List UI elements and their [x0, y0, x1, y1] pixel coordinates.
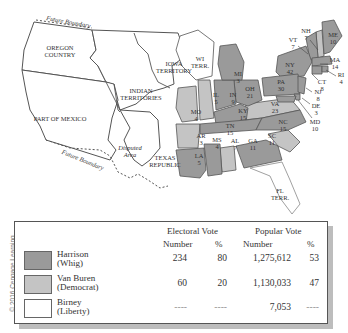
svg-text:7: 7 — [291, 43, 295, 50]
svg-text:Area: Area — [123, 151, 136, 158]
header-popular-vote: Popular Vote — [255, 226, 301, 236]
results-legend: Electoral Vote Popular Vote Number % Num… — [14, 221, 328, 324]
svg-text:REPUBLIC: REPUBLIC — [149, 161, 180, 168]
van-buren-pv-number: 1,130,033 — [237, 278, 291, 288]
svg-text:AR: AR — [196, 132, 206, 139]
svg-text:OH: OH — [245, 85, 255, 92]
svg-text:TERRITORIES: TERRITORIES — [120, 94, 162, 101]
svg-text:10: 10 — [330, 38, 337, 45]
harrison-ev-pct: 80 — [205, 253, 227, 263]
svg-text:4: 4 — [339, 78, 343, 85]
svg-text:TN: TN — [226, 122, 235, 129]
svg-text:11: 11 — [269, 139, 275, 146]
svg-text:NJ: NJ — [314, 88, 322, 95]
svg-text:5: 5 — [214, 98, 217, 105]
svg-text:30: 30 — [278, 85, 285, 92]
header-ev-number: Number — [163, 239, 193, 249]
svg-text:TERR.: TERR. — [271, 194, 290, 201]
svg-text:15: 15 — [227, 129, 234, 136]
van-buren-ev-pct: 20 — [205, 278, 227, 288]
header-pv-percent: % — [307, 239, 315, 249]
election-map-1840: OREGON COUNTRY PART OF MEXICO INDIAN TER… — [0, 0, 348, 222]
svg-text:3: 3 — [236, 77, 239, 84]
candidate-harrison: Harrison (Whig) — [57, 250, 89, 268]
header-electoral-vote: Electoral Vote — [167, 226, 218, 236]
svg-text:GA: GA — [248, 137, 258, 144]
svg-text:CT: CT — [318, 78, 326, 85]
van-buren-ev-number: 60 — [155, 278, 187, 288]
label-mexico: PART OF MEXICO — [34, 115, 87, 122]
svg-text:LA: LA — [195, 152, 204, 159]
svg-text:COUNTRY: COUNTRY — [44, 51, 75, 58]
svg-text:PA: PA — [277, 78, 285, 85]
svg-text:NY: NY — [285, 61, 295, 68]
harrison-ev-number: 234 — [155, 253, 187, 263]
svg-text:IL: IL — [213, 91, 219, 98]
header-ev-percent: % — [215, 239, 223, 249]
svg-text:MD: MD — [310, 118, 321, 125]
svg-text:ME: ME — [328, 31, 338, 38]
svg-text:15: 15 — [280, 125, 287, 132]
svg-text:8: 8 — [316, 95, 319, 102]
svg-text:NH: NH — [301, 27, 311, 34]
svg-text:TERR.: TERR. — [191, 62, 210, 69]
swatch-birney — [24, 299, 52, 318]
svg-text:MS: MS — [212, 136, 222, 143]
svg-text:21: 21 — [247, 92, 254, 99]
svg-text:14: 14 — [332, 63, 339, 70]
svg-text:VA: VA — [271, 100, 280, 107]
birney-pv-number: 7,053 — [237, 302, 291, 312]
svg-text:RI: RI — [338, 71, 345, 78]
svg-text:DE: DE — [312, 102, 321, 109]
fl-territory — [250, 162, 300, 214]
birney-pv-pct: ---- — [301, 302, 319, 312]
svg-text:MI: MI — [234, 70, 242, 77]
svg-text:AL: AL — [231, 137, 240, 144]
svg-text:3: 3 — [314, 109, 317, 116]
swatch-van-buren — [24, 275, 52, 294]
label-texas-republic: TEXAS — [155, 154, 176, 161]
van-buren-pv-pct: 47 — [301, 278, 319, 288]
svg-text:42: 42 — [287, 68, 294, 75]
label-disputed-area: Disputed — [117, 144, 142, 151]
birney-ev-number: ---- — [155, 302, 187, 312]
birney-ev-pct: ---- — [205, 302, 227, 312]
label-wi-territory: WI — [196, 55, 204, 62]
svg-text:KY: KY — [238, 107, 248, 114]
label-fl-territory: FL — [276, 187, 284, 194]
svg-text:IN: IN — [230, 91, 237, 98]
label-indian-territories: INDIAN — [129, 87, 152, 94]
svg-text:10: 10 — [312, 125, 319, 132]
swatch-harrison — [24, 251, 52, 270]
svg-text:NC: NC — [278, 118, 287, 125]
svg-text:3: 3 — [199, 139, 202, 146]
svg-text:VT: VT — [289, 36, 298, 43]
svg-text:MA: MA — [330, 56, 341, 63]
svg-text:9: 9 — [231, 98, 234, 105]
svg-text:MO: MO — [191, 108, 202, 115]
svg-text:15: 15 — [240, 114, 247, 121]
svg-text:TERRITORY: TERRITORY — [156, 67, 192, 74]
label-oregon: OREGON — [46, 44, 73, 51]
svg-text:SC: SC — [268, 132, 276, 139]
svg-text:5: 5 — [197, 159, 200, 166]
harrison-pv-pct: 53 — [301, 253, 319, 263]
header-pv-number: Number — [243, 239, 273, 249]
label-iowa-territory: IOWA — [166, 60, 183, 67]
svg-text:23: 23 — [272, 107, 279, 114]
harrison-pv-number: 1,275,612 — [237, 253, 291, 263]
candidate-birney: Birney (Liberty) — [57, 298, 89, 316]
svg-text:11: 11 — [250, 144, 256, 151]
candidate-van-buren: Van Buren (Democrat) — [57, 274, 98, 292]
